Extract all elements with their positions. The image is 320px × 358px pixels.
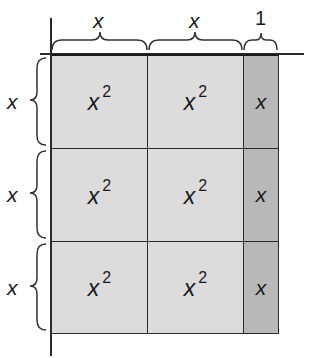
grid-divider-h2 xyxy=(52,241,279,242)
grid-top-edge xyxy=(52,54,279,56)
grid-divider-h1 xyxy=(52,148,279,149)
brace-left-1-icon xyxy=(30,58,46,145)
brace-left-2-icon xyxy=(30,151,46,238)
term-x-squared: x2 xyxy=(88,87,111,116)
grid-divider-v1 xyxy=(147,55,148,334)
brace-top-1-icon xyxy=(52,32,147,50)
term-x-squared: x2 xyxy=(184,87,207,116)
term-x-squared: x2 xyxy=(184,273,207,302)
cell-r2-c3: x xyxy=(244,149,278,241)
cell-r3-c3: x xyxy=(244,242,278,333)
term-x: x xyxy=(256,276,267,300)
term-x-squared: x2 xyxy=(88,181,111,210)
term-x-squared: x2 xyxy=(184,181,207,210)
cell-r1-c2: x2 xyxy=(148,55,243,148)
grid-divider-v2 xyxy=(243,55,244,334)
term-x-squared: x2 xyxy=(88,273,111,302)
cell-r1-c3: x xyxy=(244,55,278,148)
cell-r3-c2: x2 xyxy=(148,242,243,333)
cell-r3-c1: x2 xyxy=(52,242,147,333)
cell-r2-c1: x2 xyxy=(52,149,147,241)
term-x: x xyxy=(256,183,267,207)
term-x: x xyxy=(256,90,267,114)
brace-top-2-icon xyxy=(149,32,242,50)
brace-top-3-icon xyxy=(244,33,277,50)
grid-right-edge xyxy=(278,55,279,334)
cell-r1-c1: x2 xyxy=(52,55,147,148)
brace-left-3-icon xyxy=(30,244,46,330)
grid-bottom-edge xyxy=(52,333,279,334)
cell-r2-c2: x2 xyxy=(148,149,243,241)
